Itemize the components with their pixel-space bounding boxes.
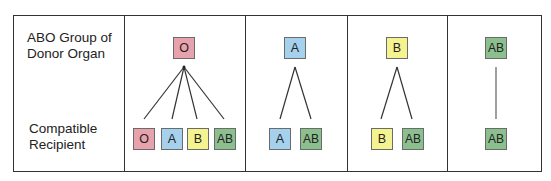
- recipient-box-AB: AB: [300, 128, 322, 150]
- recipient-box-O: O: [133, 128, 155, 150]
- line-A-to-A: [280, 67, 295, 119]
- donor-box-O: O: [173, 37, 195, 59]
- donor-box-A: A: [284, 37, 306, 59]
- compatibility-lines: [0, 0, 551, 181]
- recipient-box-B: B: [371, 128, 393, 150]
- donor-box-B: B: [386, 37, 408, 59]
- line-A-to-AB: [295, 67, 311, 119]
- recipient-box-AB: AB: [402, 128, 424, 150]
- recipient-box-A: A: [269, 128, 291, 150]
- recipient-box-A: A: [161, 128, 183, 150]
- recipient-box-AB: AB: [214, 128, 236, 150]
- donor-box-AB: AB: [485, 37, 507, 59]
- recipient-box-AB: AB: [485, 128, 507, 150]
- recipient-box-B: B: [187, 128, 209, 150]
- line-B-to-B: [381, 67, 397, 119]
- line-B-to-AB: [397, 67, 412, 119]
